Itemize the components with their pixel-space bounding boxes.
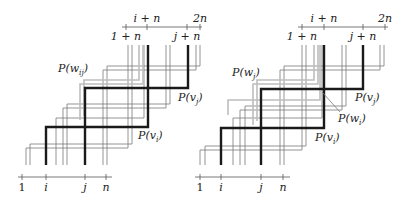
left-panel: 1ijn1 + ni + nj + n2nP(wij)P(vj)P(vi) [18,12,207,194]
tick-label: i + n [311,12,338,25]
thick-path [221,45,324,165]
gray-path [80,45,143,120]
thick-path [85,45,188,165]
thin-path [240,45,342,165]
tick-label: n [102,181,109,194]
label-p-v-j: P(vj) [354,91,380,106]
label-p-w-ij: P(wij) [57,62,88,77]
tick-label: 2n [377,12,392,25]
thin-path [280,45,380,165]
tick-label: 1 + n [111,30,141,43]
thick-path [261,45,363,165]
label-p-w-j: P(wj) [231,66,260,81]
tick-label: 2n [192,12,207,25]
label-p-v-i: P(vi) [314,131,340,146]
right-panel: 1ijn1 + ni + nj + n2nP(wj)P(vj)P(wi)P(vi… [195,12,392,194]
tick-label: j [80,181,87,194]
tick-label: j [256,181,263,194]
tick-label: j + n [171,30,201,43]
label-p-v-i: P(vi) [137,129,163,144]
thin-path [67,45,170,165]
thin-path [233,45,322,165]
tick-label: 1 [197,181,204,194]
tick-label: 1 [19,181,26,194]
two-panel-path-diagram: 1ijn1 + ni + nj + n2nP(wij)P(vj)P(vi) 1i… [0,0,409,201]
tick-label: n [279,181,286,194]
thin-path [107,45,200,165]
tick-label: 1 + n [287,30,317,43]
tick-label: i [44,181,48,194]
tick-label: i [219,181,223,194]
tick-label: j + n [347,30,377,43]
gray-path [253,45,318,125]
gray-path [84,45,139,116]
label-p-w-i: P(wi) [337,112,366,127]
thin-path [200,45,302,165]
tick-label: i + n [134,12,161,25]
label-p-v-j: P(vj) [177,91,203,106]
thin-path [103,45,196,165]
